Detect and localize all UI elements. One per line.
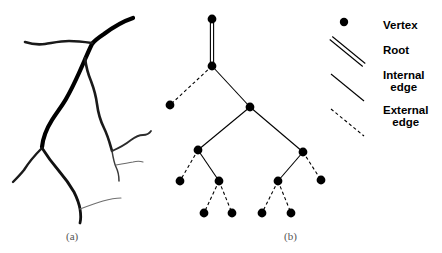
- legend-label-external-edge: External edge: [383, 104, 428, 128]
- internal-vertex-left-lower: [215, 177, 224, 186]
- external-leaf-bottom-3: [258, 209, 267, 218]
- internal-vertex-center: [246, 103, 255, 112]
- internal-vertex-right: [299, 148, 308, 157]
- external-leaf-left-a: [176, 177, 185, 186]
- panel-b-caption: (b): [284, 230, 297, 242]
- panel-a-caption: (a): [66, 230, 78, 242]
- external-leaf-left-top: [166, 101, 175, 110]
- figure-canvas: [0, 0, 442, 253]
- external-leaf-bottom-4: [287, 209, 296, 218]
- legend-label-vertex: Vertex: [383, 19, 418, 31]
- external-leaf-bottom-2: [228, 209, 237, 218]
- external-leaf-bottom-1: [200, 209, 209, 218]
- root-base-vertex: [208, 62, 217, 71]
- legend-label-internal-edge: Internal edge: [383, 69, 425, 93]
- internal-vertex-left: [194, 146, 203, 155]
- internal-vertex-right-lower: [274, 177, 283, 186]
- external-leaf-right-a: [317, 176, 326, 185]
- legend-label-root: Root: [383, 44, 409, 56]
- root-top-vertex: [208, 15, 217, 24]
- figure-background: [0, 0, 442, 253]
- legend-vertex-marker-icon: [340, 18, 348, 26]
